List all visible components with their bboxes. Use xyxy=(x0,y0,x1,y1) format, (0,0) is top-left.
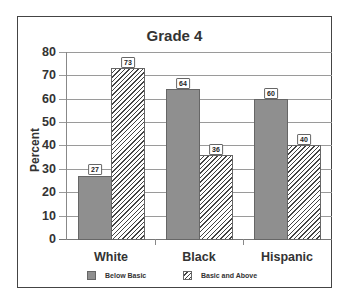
y-tick-60: 60 xyxy=(26,92,56,106)
value-label-white-above: 73 xyxy=(121,57,135,68)
y-tick-50: 50 xyxy=(26,115,56,129)
value-label-hispanic-below: 60 xyxy=(264,88,278,99)
value-label-black-below: 64 xyxy=(176,78,190,89)
bar-white-basic-and-above xyxy=(111,68,145,240)
y-tick-70: 70 xyxy=(26,68,56,82)
y-tick-0: 0 xyxy=(26,232,56,246)
legend-label-basic-and-above: Basic and Above xyxy=(201,272,257,279)
y-axis xyxy=(66,52,67,240)
x-category-hispanic: Hispanic xyxy=(261,250,313,264)
bar-white-below-basic xyxy=(78,176,112,240)
chart-title: Grade 4 xyxy=(0,27,349,44)
legend-swatch-basic-and-above xyxy=(183,271,192,280)
value-label-hispanic-above: 40 xyxy=(297,134,311,145)
gridline-80 xyxy=(59,52,332,53)
x-category-white: White xyxy=(94,250,128,264)
bar-hispanic-basic-and-above xyxy=(287,145,321,240)
bar-black-below-basic xyxy=(166,89,200,240)
x-tick xyxy=(155,239,156,245)
x-tick xyxy=(243,239,244,245)
legend-label-below-basic: Below Basic xyxy=(105,272,146,279)
value-label-white-below: 27 xyxy=(88,164,102,175)
y-tick-30: 30 xyxy=(26,162,56,176)
bar-hispanic-below-basic xyxy=(254,99,288,240)
bar-black-basic-and-above xyxy=(199,155,233,240)
legend-swatch-below-basic xyxy=(87,271,96,280)
gridline-70 xyxy=(59,75,332,76)
y-tick-80: 80 xyxy=(26,45,56,59)
y-tick-40: 40 xyxy=(26,138,56,152)
value-label-black-above: 36 xyxy=(209,144,223,155)
y-tick-10: 10 xyxy=(26,209,56,223)
y-tick-20: 20 xyxy=(26,185,56,199)
x-category-black: Black xyxy=(182,250,215,264)
